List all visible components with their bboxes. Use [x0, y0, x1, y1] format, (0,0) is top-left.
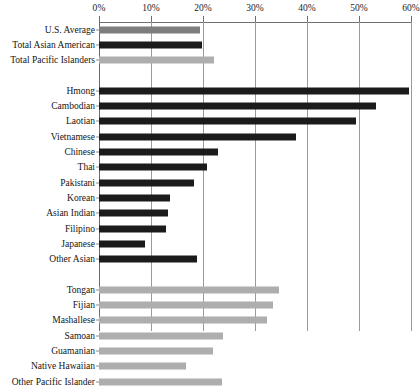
category-label: Guamanian — [51, 345, 95, 356]
category-label: Filipino — [65, 223, 95, 234]
bar — [99, 332, 223, 339]
bar-row: Native Hawaiian — [99, 359, 411, 374]
category-label: Laotian — [66, 116, 95, 127]
bar-row: Mashallese — [99, 313, 411, 328]
category-label: Total Pacific Islanders — [10, 55, 95, 66]
bar — [99, 194, 170, 201]
category-label: Mashallese — [52, 315, 95, 326]
category-label: Tongan — [67, 284, 95, 295]
bar-row: Other Pacific Islander — [99, 374, 411, 389]
category-label: U.S. Average — [45, 24, 95, 35]
category-label: Total Asian American — [12, 39, 95, 50]
x-tick-label: 30% — [246, 3, 264, 13]
bar — [99, 317, 267, 324]
category-label: Vietnamese — [51, 131, 95, 142]
bar — [99, 378, 222, 385]
x-tick-label: 50% — [350, 3, 368, 13]
plot-area: U.S. AverageTotal Asian AmericanTotal Pa… — [99, 22, 411, 331]
bar — [99, 363, 186, 370]
bar — [99, 347, 213, 354]
category-label: Thai — [78, 162, 95, 173]
bar-row: U.S. Average — [99, 22, 411, 37]
bar — [99, 240, 145, 247]
x-tick-label: 40% — [298, 3, 316, 13]
bar-row: Pakistani — [99, 175, 411, 190]
bar — [99, 57, 214, 64]
bar — [99, 26, 200, 33]
bar-row: Other Asian — [99, 252, 411, 267]
x-tick-label: 60% — [402, 3, 420, 13]
bar — [99, 103, 376, 110]
bar-row: Thai — [99, 160, 411, 175]
bar — [99, 210, 168, 217]
x-tick-label: 0% — [93, 3, 106, 13]
category-label: Native Hawaiian — [31, 361, 95, 372]
bar-row: Japanese — [99, 236, 411, 251]
bar-row: Hmong — [99, 83, 411, 98]
bar-row: Guamanian — [99, 343, 411, 358]
category-label: Samoan — [64, 330, 95, 341]
bar-row: Total Asian American — [99, 37, 411, 52]
bar-row: Chinese — [99, 144, 411, 159]
category-label: Fijian — [73, 300, 95, 311]
bar — [99, 133, 296, 140]
category-label: Korean — [67, 192, 95, 203]
category-label: Asian Indian — [46, 208, 95, 219]
gridline-60% — [411, 22, 412, 331]
bar-row: Korean — [99, 190, 411, 205]
category-label: Pakistani — [60, 177, 95, 188]
category-label: Chinese — [64, 147, 95, 158]
bar — [99, 286, 279, 293]
category-label: Hmong — [67, 85, 96, 96]
bar — [99, 118, 356, 125]
bar — [99, 225, 166, 232]
bar — [99, 41, 202, 48]
bar — [99, 87, 409, 94]
bar-row: Laotian — [99, 114, 411, 129]
bar — [99, 179, 194, 186]
bar — [99, 256, 197, 263]
bar-row: Samoan — [99, 328, 411, 343]
bar-row: Tongan — [99, 282, 411, 297]
bar-row: Vietnamese — [99, 129, 411, 144]
bar — [99, 302, 273, 309]
bar-row: Filipino — [99, 221, 411, 236]
category-label: Cambodian — [51, 101, 95, 112]
bar-row: Asian Indian — [99, 206, 411, 221]
category-label: Japanese — [61, 238, 95, 249]
bar-row: Cambodian — [99, 99, 411, 114]
bar — [99, 164, 207, 171]
bar-row: Fijian — [99, 297, 411, 312]
category-label: Other Asian — [49, 254, 95, 265]
x-tick-label: 10% — [142, 3, 160, 13]
bar — [99, 149, 218, 156]
category-label: Other Pacific Islander — [12, 376, 95, 387]
x-tick-label: 20% — [194, 3, 212, 13]
bar-row: Total Pacific Islanders — [99, 53, 411, 68]
